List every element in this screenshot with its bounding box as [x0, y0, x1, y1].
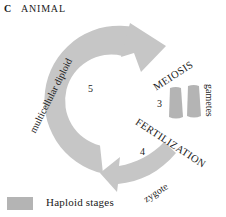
label-gametes: gametes: [204, 84, 214, 117]
stage-number-zygote: 4: [140, 147, 145, 157]
legend-label-haploid: Haploid stages: [46, 196, 114, 208]
gamete-cell-right: [187, 85, 201, 118]
stage-number-diploid: 5: [88, 84, 93, 94]
legend-swatch-haploid: [7, 197, 33, 210]
diploid-ring-arc: [44, 26, 135, 174]
life-cycle-diagram: [0, 0, 226, 217]
animal-life-cycle-figure: C ANIMAL multicellular diploid MEIOSIS F…: [0, 0, 226, 217]
stage-number-gametes: 3: [157, 99, 162, 109]
gamete-cell-left: [169, 87, 183, 119]
